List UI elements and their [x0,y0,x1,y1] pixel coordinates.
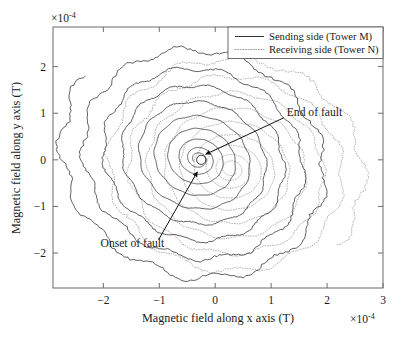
x-tick-label: 0 [212,294,218,306]
y-tick-label: 0 [40,154,46,166]
x-tick-label: 3 [380,294,386,306]
x-axis-exponent: ×10-4 [350,312,375,325]
x-tick-label: −2 [97,294,109,306]
x-exp-base: ×10 [350,313,368,325]
legend-label-receiving: Receiving side (Tower N) [269,44,379,56]
svg-text:×10-4: ×10-4 [350,312,375,325]
legend[interactable]: Sending side (Tower M) Receiving side (T… [228,27,383,59]
onset-of-fault-label: Onset of fault [101,237,166,250]
y-tick-label: −1 [34,200,46,212]
y-tick-label: 2 [40,61,46,73]
x-tick-label: 2 [324,294,330,306]
y-exp-base: ×10 [51,12,69,24]
magnetic-field-phase-plot: −2−10123 −2−1012 Magnetic field along x … [0,0,397,341]
x-tick-labels: −2−10123 [97,294,386,306]
y-tick-label: 1 [40,107,46,119]
x-tick-label: 1 [268,294,274,306]
y-tick-labels: −2−1012 [34,61,47,259]
y-exp-sup: -4 [69,11,76,20]
x-exp-sup: -4 [368,312,375,321]
x-axis-title: Magnetic field along x axis (T) [142,311,294,325]
svg-text:×10-4: ×10-4 [51,11,76,24]
y-axis-exponent: ×10-4 [51,11,76,24]
end-of-fault-label: End of fault [287,106,343,119]
x-tick-label: −1 [153,294,165,306]
y-tick-label: −2 [34,247,46,259]
y-axis-title: Magnetic field along y axis (T) [9,82,23,234]
figure-container: −2−10123 −2−1012 Magnetic field along x … [0,0,397,341]
legend-label-sending: Sending side (Tower M) [269,31,373,43]
